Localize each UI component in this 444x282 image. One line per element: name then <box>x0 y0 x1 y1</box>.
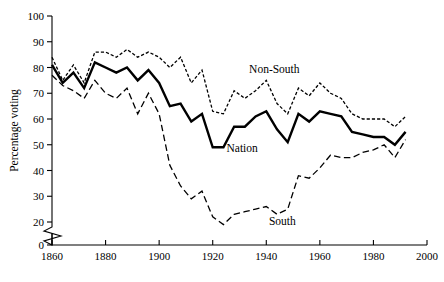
series-annotation-south: South <box>269 215 296 227</box>
y-tick-label: 90 <box>33 36 45 48</box>
y-axis-title: Percentage voting <box>8 89 21 172</box>
x-tick-label: 1940 <box>255 250 278 262</box>
series-annotation-nation: Nation <box>227 142 259 154</box>
series-line-nation <box>52 62 406 147</box>
x-tick-label: 1880 <box>95 250 118 262</box>
y-tick-label: 100 <box>28 10 45 22</box>
x-tick-label: 1980 <box>362 250 385 262</box>
y-tick-label: 50 <box>33 139 45 151</box>
x-tick-label: 1920 <box>202 250 225 262</box>
annotation-labels-group: Non-SouthNationSouth <box>227 63 300 227</box>
series-annotation-non-south: Non-South <box>249 63 300 75</box>
x-tick-label: 1960 <box>309 250 332 262</box>
voter-turnout-line-chart: 0203040506070809010018601880190019201940… <box>0 0 444 282</box>
x-tick-label: 2000 <box>416 250 439 262</box>
x-tick-label: 1900 <box>148 250 171 262</box>
y-tick-label: 30 <box>33 190 45 202</box>
series-line-non-south <box>52 49 406 126</box>
x-tick-label: 1860 <box>41 250 64 262</box>
y-tick-label: 40 <box>33 165 45 177</box>
chart-container: 0203040506070809010018601880190019201940… <box>0 0 444 282</box>
y-tick-label: 70 <box>33 87 45 99</box>
y-tick-label: 80 <box>33 62 45 74</box>
y-tick-label: 20 <box>33 216 45 228</box>
series-group <box>52 49 406 224</box>
y-tick-label: 60 <box>33 113 45 125</box>
